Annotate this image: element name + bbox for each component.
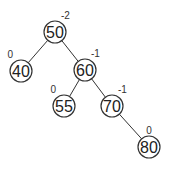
tree-node-70: 70-1 bbox=[101, 84, 127, 117]
node-key-label: 55 bbox=[55, 98, 73, 115]
balance-factor-label: -1 bbox=[91, 48, 100, 59]
nodes: 50-240060-155070-1800 bbox=[7, 10, 160, 158]
balance-factor-label: -1 bbox=[118, 84, 127, 95]
edge-n70-n80 bbox=[119, 114, 141, 139]
edge-n60-n55 bbox=[70, 80, 80, 97]
node-key-label: 50 bbox=[46, 24, 64, 41]
balance-factor-label: 0 bbox=[7, 49, 13, 60]
tree-node-80: 800 bbox=[138, 125, 160, 158]
balance-factor-label: -2 bbox=[61, 10, 70, 21]
tree-node-40: 400 bbox=[7, 49, 32, 82]
tree-node-55: 550 bbox=[50, 84, 75, 117]
node-key-label: 80 bbox=[140, 139, 158, 156]
node-key-label: 40 bbox=[12, 63, 30, 80]
edge-n50-n40 bbox=[28, 40, 48, 62]
balance-factor-label: 0 bbox=[146, 125, 152, 136]
avl-tree-diagram: 50-240060-155070-1800 bbox=[0, 0, 171, 170]
edge-n60-n70 bbox=[92, 79, 106, 97]
node-key-label: 60 bbox=[76, 62, 94, 79]
edge-n50-n60 bbox=[62, 41, 78, 62]
balance-factor-label: 0 bbox=[50, 84, 56, 95]
tree-node-50: 50-2 bbox=[44, 10, 70, 43]
tree-node-60: 60-1 bbox=[74, 48, 100, 81]
node-key-label: 70 bbox=[103, 98, 121, 115]
